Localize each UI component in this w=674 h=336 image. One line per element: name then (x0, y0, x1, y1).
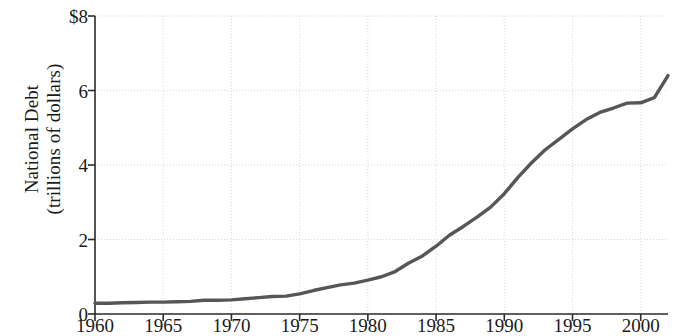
axis-ticks (88, 16, 641, 321)
national-debt-line-chart: National Debt (trillions of dollars) 024… (0, 0, 674, 336)
plot-area (0, 0, 674, 336)
data-line-national-debt (95, 76, 668, 304)
x-tick-label-1980: 1980 (349, 316, 387, 335)
x-tick-label-1960: 1960 (76, 316, 114, 335)
gridlines (95, 16, 668, 314)
x-tick-label-2000: 2000 (622, 316, 660, 335)
x-tick-label-1985: 1985 (417, 316, 455, 335)
x-tick-label-1975: 1975 (281, 316, 319, 335)
x-tick-label-1995: 1995 (554, 316, 592, 335)
x-tick-label-1970: 1970 (212, 316, 250, 335)
x-axis-tick-labels: 196019651970197519801985199019952000 (0, 316, 674, 336)
x-tick-label-1965: 1965 (144, 316, 182, 335)
x-tick-label-1990: 1990 (485, 316, 523, 335)
axis-lines (95, 16, 668, 314)
